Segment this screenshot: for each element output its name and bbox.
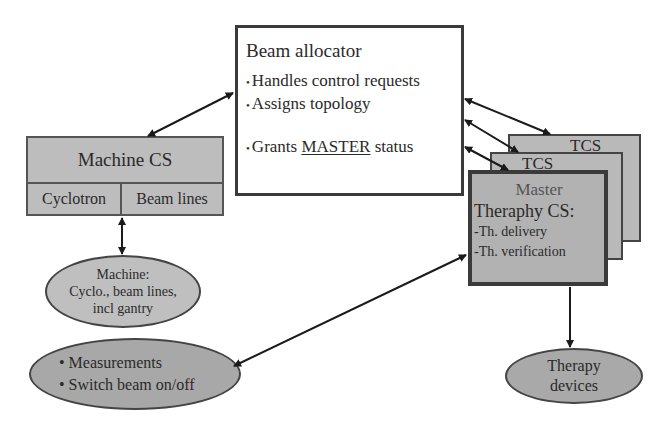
master-emphasis: MASTER (301, 137, 370, 156)
therapy-devices-ellipse: Therapy devices (505, 348, 643, 404)
therapy-devices-line: Therapy (507, 356, 641, 376)
bullet-icon: • (246, 99, 250, 111)
arrow-beam-tcs1 (465, 99, 550, 134)
beam-allocator-item: •Assigns topology (246, 93, 455, 116)
machine-ellipse: Machine: Cyclo., beam lines, incl gantry (45, 255, 201, 328)
machine-cs-subsystems: Cyclotron Beam lines (28, 182, 222, 214)
subsystem-beam-lines: Beam lines (122, 184, 222, 214)
machine-cs-title: Machine CS (28, 138, 222, 182)
beam-allocator-title: Beam allocator (246, 40, 455, 62)
machine-ellipse-line: Cyclo., beam lines, (47, 283, 199, 300)
master-label: Master (474, 180, 604, 200)
measurements-item: • Measurements (59, 352, 239, 374)
bullet-icon: • (246, 76, 250, 88)
master-item: -Th. verification (474, 242, 604, 262)
machine-ellipse-line: Machine: (47, 266, 199, 283)
bullet-icon: • (246, 142, 250, 154)
measurements-ellipse: • Measurements • Switch beam on/off (29, 338, 241, 410)
therapy-devices-line: devices (507, 376, 641, 396)
beam-allocator-item: •Handles control requests (246, 70, 455, 93)
beam-allocator-box: Beam allocator •Handles control requests… (235, 25, 464, 196)
beam-allocator-item: •Grants MASTER status (246, 136, 455, 159)
arrow-master-measurements (234, 255, 466, 366)
master-therapy-cs-box: Master Theraphy CS: -Th. delivery -Th. v… (468, 170, 608, 286)
measurements-item: • Switch beam on/off (59, 374, 239, 396)
subsystem-cyclotron: Cyclotron (28, 184, 122, 214)
master-item: -Th. delivery (474, 222, 604, 242)
machine-ellipse-line: incl gantry (47, 300, 199, 317)
machine-cs-box: Machine CS Cyclotron Beam lines (26, 136, 224, 216)
master-title: Theraphy CS: (474, 200, 604, 222)
arrow-beam-machine (148, 93, 233, 136)
